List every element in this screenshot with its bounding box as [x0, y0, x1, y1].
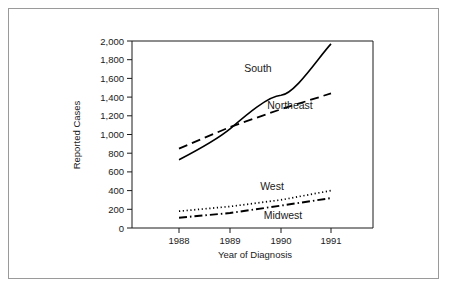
y-tick-label: 800: [108, 148, 124, 159]
series-label-midwest: Midwest: [264, 209, 303, 221]
y-tick-label: 1,000: [100, 129, 124, 140]
x-tick-label: 1988: [168, 235, 189, 246]
x-tick-label: 1991: [320, 235, 341, 246]
y-tick-label: 400: [108, 185, 124, 196]
y-tick-label: 1,200: [100, 110, 124, 121]
y-tick-label: 600: [108, 166, 124, 177]
x-tick-label: 1990: [270, 235, 291, 246]
y-axis-title: Reported Cases: [71, 100, 82, 169]
x-axis-title: Year of Diagnosis: [218, 249, 292, 260]
series-label-south: South: [244, 62, 272, 74]
y-axis-tick-labels: 2,000 1,800 1,600 1,400 1,200 1,000 800 …: [100, 36, 124, 234]
y-tick-label: 0: [119, 223, 124, 234]
y-axis-ticks: [127, 41, 132, 228]
y-tick-label: 1,800: [100, 54, 124, 65]
series-line-midwest: [179, 198, 331, 218]
y-tick-label: 200: [108, 204, 124, 215]
x-tick-label: 1989: [219, 235, 240, 246]
x-axis-tick-labels: 1988 1989 1990 1991: [168, 235, 341, 246]
figure-root: 2,000 1,800 1,600 1,400 1,200 1,000 800 …: [0, 0, 449, 289]
series-label-northeast: Northeast: [267, 99, 313, 111]
series-label-west: West: [260, 180, 284, 192]
line-chart: 2,000 1,800 1,600 1,400 1,200 1,000 800 …: [0, 0, 449, 289]
y-tick-label: 2,000: [100, 36, 124, 47]
y-tick-label: 1,400: [100, 92, 124, 103]
x-axis-ticks: [179, 228, 331, 233]
y-tick-label: 1,600: [100, 73, 124, 84]
